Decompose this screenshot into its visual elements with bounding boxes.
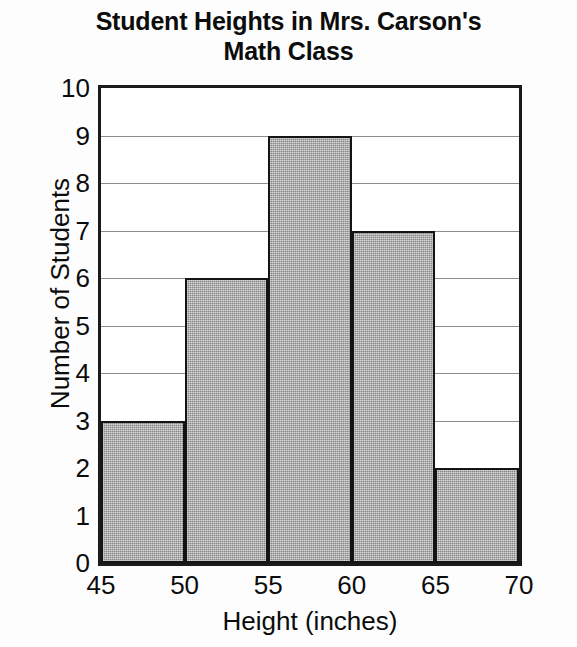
- x-tick-label-50: 50: [150, 572, 220, 598]
- x-tick-label-55: 55: [233, 572, 303, 598]
- y-tick-label-7: 7: [46, 218, 90, 244]
- y-tick-label-8: 8: [46, 170, 90, 196]
- x-tick-label-45: 45: [66, 572, 136, 598]
- y-tick-label-10: 10: [46, 75, 90, 101]
- plot-area: [98, 85, 522, 566]
- y-tick-label-3: 3: [46, 408, 90, 434]
- y-axis-tick-labels: 012345678910: [42, 85, 90, 566]
- bar-45-50: [101, 421, 185, 564]
- chart-title: Student Heights in Mrs. Carson's Math Cl…: [0, 6, 577, 66]
- x-tick-label-65: 65: [400, 572, 470, 598]
- y-tick-label-5: 5: [46, 313, 90, 339]
- bar-55-60: [268, 136, 352, 564]
- histogram-figure: Student Heights in Mrs. Carson's Math Cl…: [0, 0, 577, 647]
- y-tick-label-2: 2: [46, 455, 90, 481]
- plot-inner: [101, 88, 519, 563]
- y-tick-label-4: 4: [46, 360, 90, 386]
- x-axis-tick-labels: 455055606570: [98, 572, 522, 606]
- chart-title-line-1: Student Heights in Mrs. Carson's: [0, 6, 577, 36]
- x-tick-label-60: 60: [317, 572, 387, 598]
- bar-65-70: [435, 468, 519, 563]
- x-tick-label-70: 70: [484, 572, 554, 598]
- y-tick-label-9: 9: [46, 123, 90, 149]
- y-tick-label-1: 1: [46, 503, 90, 529]
- bar-50-55: [185, 278, 269, 563]
- x-axis-title: Height (inches): [98, 606, 522, 637]
- bar-60-65: [352, 231, 436, 564]
- y-tick-label-6: 6: [46, 265, 90, 291]
- chart-title-line-2: Math Class: [0, 36, 577, 66]
